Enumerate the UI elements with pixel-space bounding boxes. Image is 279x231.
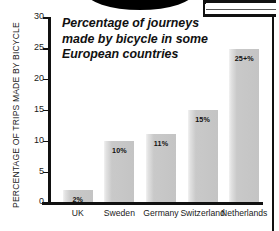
y-tick-label: 20 [34, 73, 44, 84]
bar-switzerland: 15%Switzerland [188, 110, 218, 203]
y-tick-label: 15 [34, 104, 44, 115]
bar-value-label: 10% [104, 146, 134, 155]
bar-value-label: 15% [188, 115, 218, 124]
bar-value-label: 11% [146, 139, 176, 148]
bar-value-label: 2% [63, 195, 93, 204]
x-axis-category-label: UK [72, 208, 84, 218]
bar-value-label: 25+% [229, 54, 259, 63]
y-tick-label: 30 [34, 11, 44, 22]
x-axis-category-label: Netherlands [221, 208, 267, 218]
x-axis-category-label: Sweden [104, 208, 135, 218]
bar-sweden: 10%Sweden [104, 141, 134, 203]
bar-uk: 2%UK [63, 190, 93, 202]
right-margin [276, 0, 279, 231]
plot-area: 051015202530 2%UK10%Sweden11%Germany15%S… [48, 17, 263, 205]
x-axis-category-label: Switzerland [180, 208, 224, 218]
black-ellipse-icon [86, 0, 194, 10]
chart-page: PERCENTAGE OF TRIPS MADE BY BICYCLE Perc… [0, 0, 279, 231]
y-tick-label: 0 [39, 196, 44, 207]
bar-series: 2%UK10%Sweden11%Germany15%Switzerland25+… [50, 17, 263, 202]
x-axis-category-label: Germany [143, 208, 178, 218]
vertical-rule [272, 14, 274, 231]
y-axis-label: PERCENTAGE OF TRIPS MADE BY BICYCLE [11, 15, 21, 215]
bar-germany: 11%Germany [146, 134, 176, 202]
bar-netherlands: 25+%Netherlands [229, 49, 259, 202]
dark-frame-corner-inner [206, 3, 279, 10]
y-tick-label: 5 [39, 166, 44, 177]
y-tick-label: 10 [34, 135, 44, 146]
y-tick-label: 25 [34, 42, 44, 53]
